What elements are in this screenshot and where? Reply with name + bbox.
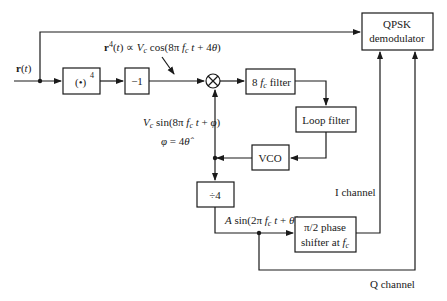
q-channel-label: Q channel (370, 278, 415, 290)
i-channel-line (356, 52, 380, 233)
input-label: r(t) (16, 62, 32, 75)
loop-filter-block: Loop filter (296, 107, 356, 132)
i-channel-label: I channel (335, 186, 376, 198)
loopfilter-to-vco-line (291, 132, 326, 158)
phi-label: φ = 4θ̂ (161, 135, 195, 147)
qpsk-label-line2: demodulator (369, 32, 425, 44)
phase-shifter-label-line2: shifter at fc (301, 236, 350, 250)
div-out-label: A sin(2π fc t + θ̂) (224, 214, 299, 228)
r4-label: r4(t) ∝ Vc cos(8π fc t + 4θ) (104, 40, 221, 55)
qpsk-label-line1: QPSK (383, 18, 411, 30)
div4-block: ÷4 (197, 182, 234, 207)
power4-label: (•) (75, 76, 87, 89)
loop-filter-label: Loop filter (302, 114, 350, 126)
input-signal: r(t) (14, 62, 61, 83)
r4-pointer-arrow (162, 57, 174, 74)
phase-shifter-label-line1: π/2 phase (304, 221, 346, 233)
mixer (206, 74, 220, 88)
vco-label: VCO (258, 152, 281, 164)
phase-shifter-block: π/2 phase shifter at fc (295, 217, 356, 252)
filter8fc-label: 8 fc filter (252, 76, 291, 90)
neg1-label: −1 (131, 75, 143, 87)
vco-out-label: Vc sin(8π fc t + φ) (143, 116, 221, 130)
qpsk-demodulator-block: QPSK demodulator (362, 13, 433, 50)
neg1-block: −1 (125, 68, 149, 94)
r4-annotation: r4(t) ∝ Vc cos(8π fc t + 4θ) (104, 40, 221, 74)
filter8fc-block: 8 fc filter (246, 69, 295, 94)
power4-exponent: 4 (90, 71, 94, 80)
div4-label: ÷4 (209, 189, 221, 201)
filter-to-loopfilter-line (295, 81, 326, 105)
power4-block: (•) 4 (63, 68, 100, 94)
block-diagram: r(t) (•) 4 −1 r4(t) ∝ Vc cos(8π fc t + 4… (0, 0, 447, 301)
vco-block: VCO (252, 145, 289, 170)
